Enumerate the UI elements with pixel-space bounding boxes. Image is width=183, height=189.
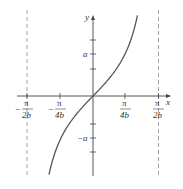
y-axis-label: y (84, 12, 89, 22)
x-label-numerator: π (57, 98, 62, 108)
x-label-minus-sign: − (48, 104, 53, 114)
y-label-neg-a: −a (77, 133, 88, 143)
y-label-a: a (83, 49, 88, 59)
x-label-denominator: 2b (153, 110, 163, 120)
x-label-numerator: π (122, 98, 127, 108)
x-label-numerator: π (24, 98, 29, 108)
tangent-graph: y x a −a − π 2b − π 4b π 4b π 2b (0, 0, 183, 189)
y-axis-arrow-icon (91, 15, 95, 20)
x-label-numerator: π (155, 98, 160, 108)
x-label-minus-sign: − (15, 104, 20, 114)
x-axis-label: x (165, 97, 170, 107)
x-label-denominator: 2b (22, 110, 32, 120)
x-label-denominator: 4b (120, 110, 130, 120)
x-label-denominator: 4b (55, 110, 65, 120)
